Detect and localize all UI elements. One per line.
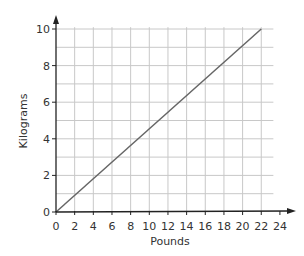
x-tick-label: 6: [108, 220, 115, 233]
y-tick-label: 0: [43, 206, 50, 219]
y-tick-label: 6: [43, 96, 50, 109]
x-tick-label: 0: [53, 220, 60, 233]
y-tick-label: 10: [36, 23, 50, 36]
x-axis-arrow-icon: [287, 208, 296, 214]
x-tick-label: 2: [71, 220, 78, 233]
y-axis-tick-labels: 0246810: [36, 23, 56, 219]
x-tick-label: 18: [217, 220, 231, 233]
x-tick-label: 16: [198, 220, 212, 233]
x-tick-label: 14: [180, 220, 194, 233]
x-tick-label: 12: [161, 220, 175, 233]
x-tick-label: 24: [273, 220, 287, 233]
grid-lines: [56, 27, 273, 212]
x-tick-label: 10: [142, 220, 156, 233]
x-axis-line: [56, 211, 289, 212]
y-tick-label: 4: [43, 133, 50, 146]
y-tick-label: 2: [43, 169, 50, 182]
y-axis-title: Kilograms: [17, 93, 30, 148]
y-axis-arrow-icon: [53, 15, 59, 24]
x-axis-tick-labels: 024681012141618202224: [53, 211, 287, 233]
axes: [53, 15, 296, 214]
chart: 024681012141618202224 0246810 Pounds Kil…: [0, 0, 304, 256]
x-tick-label: 4: [90, 220, 97, 233]
x-tick-label: 8: [127, 220, 134, 233]
x-tick-label: 20: [236, 220, 250, 233]
x-tick-label: 22: [254, 220, 268, 233]
y-tick-label: 8: [43, 60, 50, 73]
x-axis-title: Pounds: [150, 235, 190, 248]
